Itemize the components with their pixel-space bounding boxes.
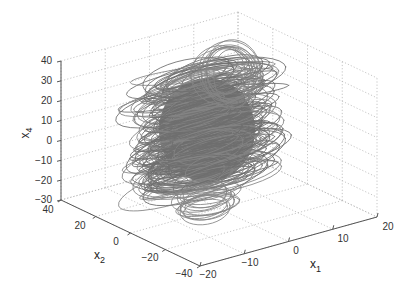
- x2-label-sub: 2: [100, 255, 105, 265]
- x1-tick-labels: −20 −10 0 10 20: [200, 221, 394, 280]
- x2-tick-label: −40: [176, 268, 193, 279]
- x1-axis-label: x1: [310, 257, 321, 274]
- x1-tick-label: 20: [382, 221, 394, 232]
- z-tick-label: 10: [41, 115, 53, 126]
- x1-tick-label: 0: [293, 245, 299, 256]
- z-tick-label: −10: [35, 155, 52, 166]
- x1-tick-label: 10: [337, 233, 349, 244]
- z-tick-labels: 40 30 20 10 0 −10 −20 −30: [35, 55, 52, 205]
- x2-tick-label: 0: [113, 236, 119, 247]
- x2-tick-label: 20: [74, 220, 86, 231]
- x2-tick-label: 40: [42, 204, 54, 215]
- x4-axis-label: x4: [18, 127, 34, 138]
- x1-tick-label: −20: [200, 269, 217, 280]
- z-tick-label: 30: [41, 75, 53, 86]
- z-tick-label: −20: [35, 175, 52, 186]
- x1-tick-label: −10: [242, 257, 259, 268]
- x2-tick-label: −20: [142, 252, 159, 263]
- x2-tick-labels: 40 20 0 −20 −40: [42, 204, 192, 279]
- x4-label-sub: 4: [24, 127, 34, 132]
- x2-axis-label: x2: [94, 248, 105, 265]
- x1-label-sub: 1: [316, 264, 321, 274]
- z-tick-label: 0: [46, 135, 52, 146]
- z-tick-label: 40: [41, 55, 53, 66]
- trajectory: [111, 36, 295, 228]
- attractor-3d-plot: 40 30 20 10 0 −10 −20 −30 40 20 0 −20 −4…: [0, 0, 411, 290]
- svg-text:x4: x4: [18, 127, 34, 138]
- z-tick-label: 20: [41, 95, 53, 106]
